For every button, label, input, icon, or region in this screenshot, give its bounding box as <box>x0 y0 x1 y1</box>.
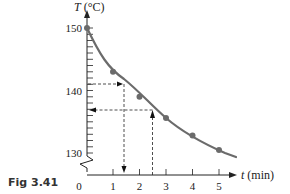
arrow-right-icon <box>117 82 123 87</box>
arrow-up-icon <box>150 110 155 118</box>
y-tick-140: 140 <box>66 85 83 97</box>
y-axis-title: T (°C) <box>74 0 104 14</box>
y-tick-130: 130 <box>66 147 83 159</box>
x-axis-arrow-icon <box>229 172 237 178</box>
x-tick-1: 1 <box>110 180 116 192</box>
data-point <box>137 94 143 100</box>
arrow-down-icon <box>122 166 127 173</box>
data-point <box>110 69 116 75</box>
x-tick-5: 5 <box>216 180 222 192</box>
lookup-lines <box>88 82 155 176</box>
temperature-chart: 150 140 130 T (°C) 0 1 2 3 4 5 t (min) <box>0 0 290 194</box>
data-points <box>84 25 222 153</box>
data-point <box>163 115 169 121</box>
x-tick-3: 3 <box>163 180 169 192</box>
arrow-left-icon <box>89 108 96 113</box>
x-axis-title: t (min) <box>241 168 274 182</box>
data-point <box>190 133 196 139</box>
x-tick-2: 2 <box>137 180 143 192</box>
temperature-curve <box>87 28 236 157</box>
figure-caption: Fig 3.41 <box>8 176 58 189</box>
y-tick-150: 150 <box>66 22 83 34</box>
data-point <box>216 147 222 153</box>
data-point <box>84 25 90 31</box>
x-tick-0: 0 <box>76 180 82 192</box>
x-axis: 0 1 2 3 4 5 t (min) <box>76 168 274 192</box>
x-tick-4: 4 <box>190 180 196 192</box>
